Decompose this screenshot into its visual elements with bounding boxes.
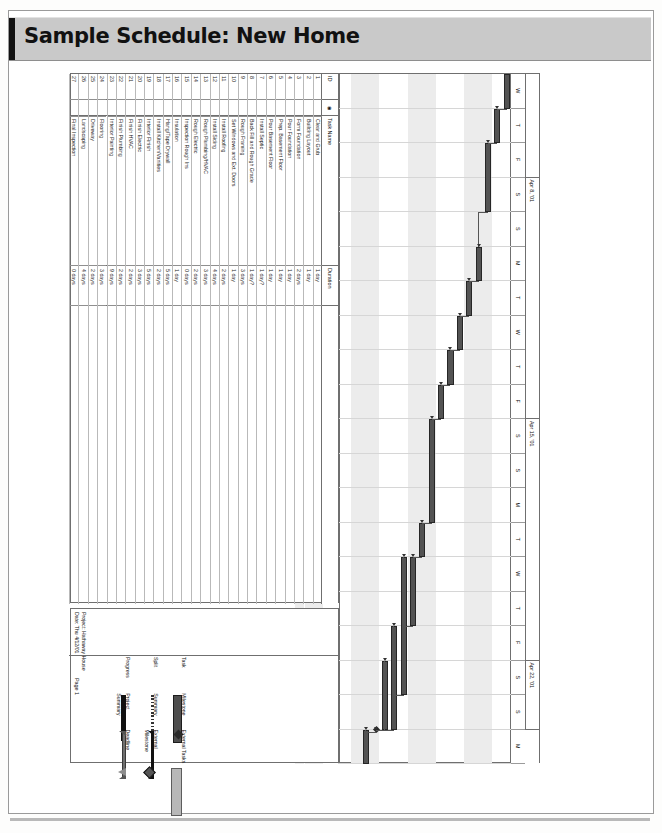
- timeline-day-label: S: [511, 661, 525, 696]
- cell-pad: [295, 306, 303, 604]
- cell-pad: [201, 306, 209, 604]
- cell-id: 10: [229, 74, 237, 100]
- gantt-gridline: [338, 488, 511, 523]
- cell-id: 27: [70, 74, 78, 100]
- table-row[interactable]: 23Interior Painting9 days: [107, 74, 116, 604]
- cell-indicator: [108, 100, 116, 117]
- table-row[interactable]: 20Finish Electric3 days: [135, 74, 144, 604]
- gantt-bar[interactable]: [476, 247, 482, 282]
- gantt-gridline: [338, 109, 511, 144]
- timeline-day-label: T: [511, 523, 525, 558]
- cell-task-name: Interior Painting: [108, 116, 116, 266]
- timeline-day-label: T: [511, 350, 525, 385]
- cell-indicator: [182, 100, 190, 117]
- gantt-bar[interactable]: [391, 626, 397, 730]
- table-row[interactable]: 9Rough Framing3 days: [238, 74, 247, 604]
- gantt-bar[interactable]: [410, 557, 416, 626]
- cell-pad: [267, 306, 275, 604]
- cell-id: 6: [267, 74, 275, 100]
- cell-task-name: Prep. Basement Floor: [276, 116, 284, 266]
- banner-accent-bar: [9, 18, 15, 60]
- table-row[interactable]: 15Inspection Rough Ins0 days: [181, 74, 190, 604]
- cell-task-name: Rough Electric: [192, 116, 200, 266]
- title-banner: Sample Schedule: New Home: [9, 17, 651, 61]
- table-row[interactable]: 4Pour Foundation1 day: [285, 74, 294, 604]
- cell-task-name: Interior Finish: [145, 116, 153, 266]
- cell-duration: 1 day?: [248, 266, 256, 306]
- timeline-week-label: Apr 15, '01: [525, 419, 539, 661]
- cell-duration: 4 days: [79, 266, 87, 306]
- table-row[interactable]: 27Final Inspection0 days: [69, 74, 78, 604]
- cell-duration: 2 days: [192, 266, 200, 306]
- gantt-bar[interactable]: [429, 419, 435, 523]
- table-row[interactable]: 26Landscaping4 days: [78, 74, 87, 604]
- table-row[interactable]: 13Rough Plumbing/HVAC3 days: [200, 74, 209, 604]
- gantt-bar[interactable]: [504, 74, 510, 109]
- legend-label: Summary: [134, 693, 160, 727]
- cell-pad: [314, 306, 322, 604]
- table-row[interactable]: 24Flooring3 days: [97, 74, 106, 604]
- cell-pad: [136, 306, 144, 604]
- cell-id: 12: [211, 74, 219, 100]
- table-row[interactable]: 11Install Roofing2 days: [219, 74, 228, 604]
- gantt-bar[interactable]: [485, 143, 491, 212]
- legend-item: Split: [134, 655, 160, 691]
- gantt-bar[interactable]: [382, 661, 388, 730]
- table-row[interactable]: 17Hang/Tape Drywall5 days: [163, 74, 172, 604]
- cell-indicator: [248, 100, 256, 117]
- table-row[interactable]: 25Driveway2 days: [88, 74, 97, 604]
- table-row[interactable]: 16Insulation1 day: [172, 74, 181, 604]
- table-row[interactable]: 22Finish Plumbing2 days: [116, 74, 125, 604]
- page-shadow: [10, 818, 650, 821]
- gantt-bar[interactable]: [363, 730, 369, 765]
- gantt-bar[interactable]: [457, 316, 463, 351]
- table-row[interactable]: 5Prep. Basement Floor1 day: [275, 74, 284, 604]
- cell-id: 25: [89, 74, 97, 100]
- cell-indicator: [201, 100, 209, 117]
- cell-id: 7: [257, 74, 265, 100]
- table-row[interactable]: 2Building Layout1 day: [303, 74, 312, 604]
- table-row[interactable]: 3Form Foundation2 days: [294, 74, 303, 604]
- cell-pad: [164, 306, 172, 604]
- timeline-day-label: W: [511, 557, 525, 592]
- table-row[interactable]: 1Clear and Grub1 day: [313, 74, 322, 604]
- gantt-sheet: Apr 8, '01Apr 15, '01Apr 22, '01WTFSSMTW…: [70, 73, 540, 763]
- gantt-link-arrow: [420, 520, 424, 523]
- gantt-link: [385, 730, 394, 731]
- table-row[interactable]: 10Set Windows and Ext. Doors1 day: [228, 74, 237, 604]
- cell-pad: [145, 306, 153, 604]
- cell-id: 20: [136, 74, 144, 100]
- table-row[interactable]: 7Install Septic1 day?: [256, 74, 265, 604]
- legend-item: Progress: [106, 655, 132, 691]
- gantt-gridline: [338, 454, 511, 489]
- gantt-bar[interactable]: [466, 281, 472, 316]
- timeline-day-label: M: [511, 730, 525, 765]
- cell-indicator: [70, 100, 78, 117]
- cell-indicator: [314, 100, 322, 117]
- cell-indicator: [229, 100, 237, 117]
- timeline-day-label: M: [511, 247, 525, 282]
- cell-task-name: Install Roofing: [220, 116, 228, 266]
- page-number: Page 1: [74, 609, 80, 764]
- cell-id: 16: [173, 74, 181, 100]
- gantt-bar[interactable]: [419, 523, 425, 558]
- gantt-bar[interactable]: [447, 350, 453, 385]
- table-row[interactable]: 6Pour Basement Floor1 day: [266, 74, 275, 604]
- timeline-day-label: W: [511, 74, 525, 109]
- table-row[interactable]: 21Finish HVAC2 days: [125, 74, 134, 604]
- gantt-link: [441, 385, 450, 386]
- legend-label: Project Summary: [106, 693, 132, 727]
- table-row[interactable]: 19Interior Finish5 days: [144, 74, 153, 604]
- timeline-day-label: S: [511, 695, 525, 730]
- gantt-link-arrow: [383, 658, 387, 661]
- gantt-bar[interactable]: [438, 385, 444, 420]
- cell-id: 23: [108, 74, 116, 100]
- gantt-bar[interactable]: [494, 109, 500, 144]
- table-row[interactable]: 14Rough Electric2 days: [191, 74, 200, 604]
- table-row[interactable]: 8Back Fill and Rough Grade1 day?: [247, 74, 256, 604]
- cell-duration: 1 day: [276, 266, 284, 306]
- table-row[interactable]: 18Install Kitchen/Vanities2 days: [153, 74, 162, 604]
- legend-item: External Tasks: [162, 728, 188, 764]
- table-row[interactable]: 12Install Siding4 days: [210, 74, 219, 604]
- cell-task-name: Clear and Grub: [314, 116, 322, 266]
